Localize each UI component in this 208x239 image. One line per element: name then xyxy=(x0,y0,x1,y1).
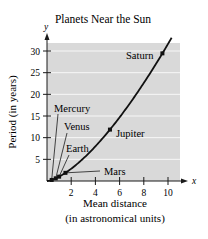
y-tick-label: 25 xyxy=(31,68,41,78)
chart: Planets Near the Sun x y 246810 51015202… xyxy=(0,0,208,239)
x-tick-label: 2 xyxy=(69,188,74,198)
x-axis-label-line2: (in astronomical units) xyxy=(65,212,165,225)
x-axis-letter: x xyxy=(191,176,197,186)
chart-title: Planets Near the Sun xyxy=(55,13,151,25)
label-venus: Venus xyxy=(64,121,90,132)
y-tick-label: 5 xyxy=(35,155,40,165)
y-tick-label: 15 xyxy=(31,112,41,122)
label-earth: Earth xyxy=(66,143,89,154)
point-jupiter xyxy=(108,128,112,132)
x-tick-label: 10 xyxy=(163,188,173,198)
y-tick-label: 30 xyxy=(31,47,41,57)
x-axis-label-line1: Mean distance xyxy=(83,197,147,209)
point-mercury xyxy=(50,178,54,182)
point-mars xyxy=(63,171,67,175)
point-saturn xyxy=(160,51,164,55)
label-mercury: Mercury xyxy=(54,103,91,114)
y-axis-letter: y xyxy=(43,22,49,32)
x-axis-arrow-icon xyxy=(181,179,188,184)
label-mars: Mars xyxy=(104,166,126,177)
y-tick-label: 10 xyxy=(31,133,41,143)
label-jupiter: Jupiter xyxy=(116,128,145,139)
y-tick-label: 20 xyxy=(31,90,41,100)
y-axis-label: Period (in years) xyxy=(6,75,19,149)
point-earth xyxy=(57,175,61,179)
label-saturn: Saturn xyxy=(126,50,154,61)
y-axis-arrow-icon xyxy=(45,33,50,40)
